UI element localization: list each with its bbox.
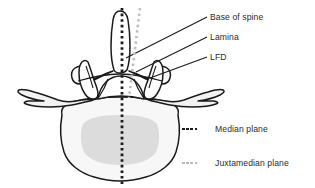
legend-dot-icon — [190, 128, 193, 131]
legend-dot-icon — [182, 128, 185, 131]
vertebral-body-inner-region — [81, 115, 159, 165]
leader-line-base-of-spine — [126, 17, 207, 58]
legend-dot-icon — [182, 162, 185, 165]
legend-dot-icon — [186, 128, 189, 131]
leader-line-lamina — [136, 37, 207, 72]
legend-dot-icon — [186, 162, 189, 165]
anatomical-figure: Base of spine Lamina LFD Median plane Ju… — [0, 0, 315, 188]
legend-dot-icon — [195, 162, 198, 165]
label-lamina: Lamina — [210, 33, 239, 42]
legend-dot-icon — [190, 162, 193, 165]
label-base-of-spine: Base of spine — [210, 13, 263, 22]
legend-label-median-plane: Median plane — [215, 125, 268, 134]
legend-dot-icon — [195, 128, 198, 131]
legend-swatch-median-plane — [182, 128, 197, 131]
spinous-process — [111, 11, 130, 73]
legend-label-juxtamedian-plane: Juxtamedian plane — [215, 159, 289, 168]
label-lfd: LFD — [210, 53, 227, 62]
legend-swatch-juxtamedian-plane — [182, 162, 197, 165]
